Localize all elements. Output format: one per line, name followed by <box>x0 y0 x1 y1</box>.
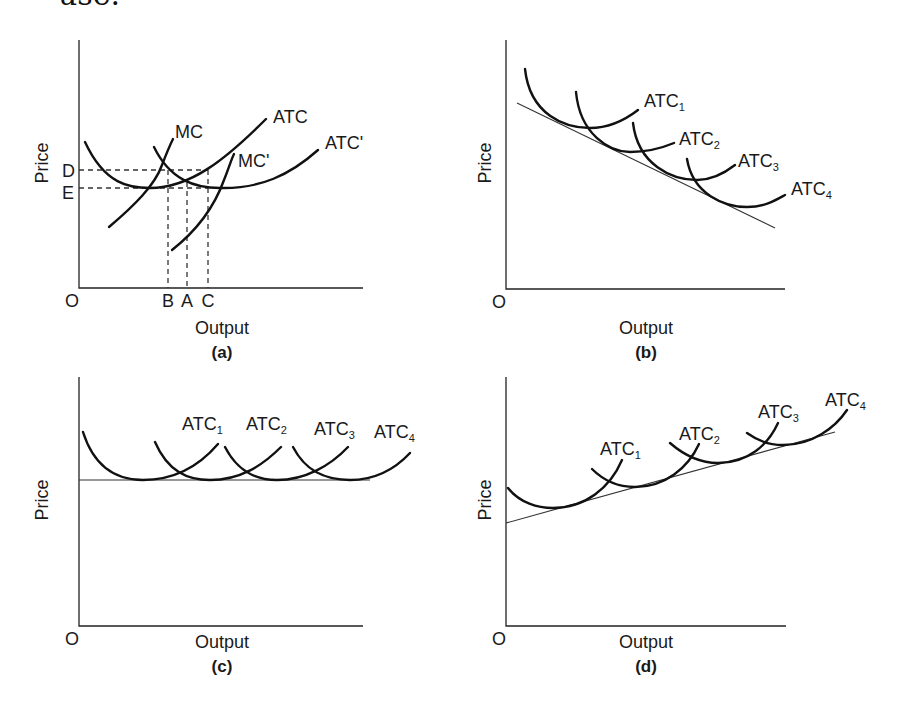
curve-label-atc2: ATC2 <box>679 424 720 446</box>
curve-label-atc1: ATC1 <box>644 91 685 113</box>
y-axis-label: Price <box>32 142 52 183</box>
curve-mc-prime <box>172 154 234 250</box>
y-axis-label: Price <box>32 479 52 520</box>
x-axis-label: Output <box>195 318 249 338</box>
x-axis-label: Output <box>619 318 673 338</box>
curve-atc1 <box>508 460 622 508</box>
origin-label: O <box>492 292 506 312</box>
origin-label: O <box>65 629 79 649</box>
curve-label-atc3: ATC3 <box>314 419 355 441</box>
curve-atc4 <box>293 447 410 480</box>
origin-label: O <box>492 629 506 649</box>
axes <box>506 377 786 626</box>
curve-label-atc3: ATC3 <box>758 402 799 424</box>
panel-caption: (b) <box>635 343 657 362</box>
curve-label-mc: MC <box>175 122 203 142</box>
long-run-envelope-line <box>517 103 775 228</box>
panel-caption: (a) <box>212 343 233 362</box>
y-axis-label: Price <box>475 142 495 183</box>
curve-label-atc1: ATC1 <box>600 439 641 461</box>
x-axis-label: Output <box>619 632 673 652</box>
x-axis-label: Output <box>195 632 249 652</box>
curve-label-atc1: ATC1 <box>182 414 223 436</box>
panel-caption: (d) <box>635 657 657 676</box>
curve-label-atc4: ATC4 <box>791 179 832 201</box>
output-level-label-c: C <box>202 291 215 311</box>
panel-a: DEBACATCMCATC'MC'OPriceOutput(a) <box>32 40 363 362</box>
cost-curves-figure: use. DEBACATCMCATC'MC'OPriceOutput(a)ATC… <box>0 0 900 715</box>
panel-d: ATC1ATC2ATC3ATC4OPriceOutput(d) <box>475 377 866 676</box>
output-level-label-a: A <box>181 291 193 311</box>
panel-caption: (c) <box>212 657 233 676</box>
price-level-label-d: D <box>62 161 75 181</box>
origin-label: O <box>65 291 79 311</box>
curve-label-atc: ATC <box>273 107 308 127</box>
axes <box>79 377 363 626</box>
curve-atc3 <box>225 447 348 480</box>
curve-atc1 <box>83 432 218 480</box>
curve-label-mc-prime: MC' <box>238 151 269 171</box>
curve-label-atc2: ATC2 <box>679 129 720 151</box>
output-level-label-b: B <box>162 291 174 311</box>
cropped-header-text: use. <box>58 0 120 12</box>
panel-b: ATC1ATC2ATC3ATC4OPriceOutput(b) <box>475 40 832 362</box>
panels-container: DEBACATCMCATC'MC'OPriceOutput(a)ATC1ATC2… <box>32 40 866 676</box>
curve-label-atc-prime: ATC' <box>325 133 363 153</box>
curve-label-atc4: ATC4 <box>825 390 866 412</box>
curve-label-atc4: ATC4 <box>374 422 415 444</box>
curve-label-atc3: ATC3 <box>738 151 779 173</box>
y-axis-label: Price <box>475 479 495 520</box>
panel-c: ATC1ATC2ATC3ATC4OPriceOutput(c) <box>32 377 415 676</box>
curve-label-atc2: ATC2 <box>246 414 287 436</box>
axes <box>79 40 363 288</box>
curve-atc1 <box>525 69 638 128</box>
price-level-label-e: E <box>62 183 74 203</box>
